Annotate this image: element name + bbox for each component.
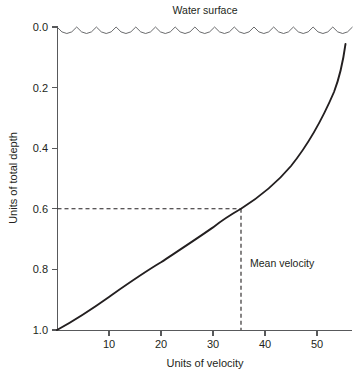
water-surface-wave-path — [57, 27, 353, 34]
y-tick-label-0.2: 0.2 — [33, 82, 48, 94]
y-tick-label-0.0: 0.0 — [33, 21, 48, 33]
x-axis-ticks — [109, 331, 317, 337]
y-tick-label-0.8: 0.8 — [33, 263, 48, 275]
velocity-profile-curve — [57, 44, 346, 330]
chart-canvas: 0.0 0.2 0.4 0.6 0.8 1.0 10 20 30 40 50 M… — [0, 0, 359, 373]
y-tick-label-1.0: 1.0 — [33, 324, 48, 336]
velocity-depth-chart: 0.0 0.2 0.4 0.6 0.8 1.0 10 20 30 40 50 M… — [0, 0, 359, 373]
y-axis-title: Units of total depth — [7, 132, 19, 224]
y-tick-label-0.6: 0.6 — [33, 203, 48, 215]
x-tick-label-10: 10 — [103, 338, 115, 350]
water-surface-title: Water surface — [173, 4, 238, 16]
x-tick-label-20: 20 — [155, 338, 167, 350]
y-axis-ticks — [52, 27, 58, 330]
mean-velocity-label: Mean velocity — [250, 257, 315, 269]
x-axis-title: Units of velocity — [166, 357, 244, 369]
x-tick-label-40: 40 — [259, 338, 271, 350]
water-surface-scallops — [57, 27, 353, 34]
x-tick-label-50: 50 — [311, 338, 323, 350]
y-tick-label-0.4: 0.4 — [33, 142, 48, 154]
x-tick-label-30: 30 — [207, 338, 219, 350]
